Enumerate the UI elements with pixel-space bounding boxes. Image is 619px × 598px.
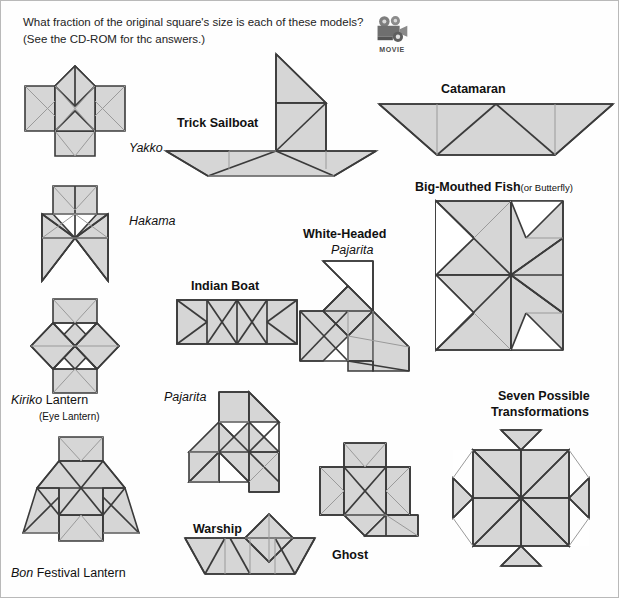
figure-trick-sailboat <box>166 51 376 176</box>
figure-big-mouthed-fish <box>416 198 606 350</box>
figure-indian-boat <box>175 297 299 347</box>
figure-white-headed-pajarita <box>301 259 423 377</box>
label-fish-paren: (or Butterfly) <box>521 182 573 193</box>
label-kiriko-rest: Lantern <box>42 393 88 407</box>
label-ghost: Ghost <box>332 548 368 562</box>
figure-yakko <box>15 61 135 161</box>
label-kiriko-em: Kiriko <box>11 393 42 407</box>
label-white-headed-pajarita-1: White-Headed <box>303 227 386 241</box>
label-bon-lantern: Bon Festival Lantern <box>11 566 126 580</box>
figure-seven-transformations <box>441 426 601 571</box>
label-seven-transformations-2: Transformations <box>491 405 589 419</box>
movie-camera-icon <box>375 15 409 45</box>
label-fish-main: Big-Mouthed Fish <box>415 180 521 194</box>
figure-ghost <box>306 441 430 545</box>
figure-kiriko-lantern <box>15 296 135 396</box>
label-hakama: Hakama <box>129 214 176 228</box>
page-canvas: What fraction of the original square's s… <box>0 0 619 598</box>
figure-warship <box>183 506 315 578</box>
label-seven-transformations-1: Seven Possible <box>498 389 590 403</box>
label-white-headed-pajarita-2: Pajarita <box>331 243 373 257</box>
figure-catamaran <box>379 101 613 159</box>
page-question: What fraction of the original square's s… <box>23 14 383 48</box>
label-kiriko-lantern: Kiriko Lantern <box>11 393 88 407</box>
label-kiriko-sublabel: (Eye Lantern) <box>39 410 100 424</box>
question-line-1: What fraction of the original square's s… <box>23 14 383 31</box>
label-yakko: Yakko <box>129 141 163 155</box>
label-bon-rest: Festival Lantern <box>33 566 125 580</box>
label-bon-em: Bon <box>11 566 33 580</box>
label-catamaran: Catamaran <box>441 82 506 96</box>
figure-pajarita <box>181 389 299 497</box>
figure-bon-lantern <box>15 433 155 551</box>
label-indian-boat: Indian Boat <box>191 279 259 293</box>
figure-hakama <box>15 181 135 291</box>
label-big-mouthed-fish: Big-Mouthed Fish(or Butterfly) <box>415 180 573 195</box>
question-line-2: (See the CD-ROM for thc answers.) <box>23 31 383 48</box>
